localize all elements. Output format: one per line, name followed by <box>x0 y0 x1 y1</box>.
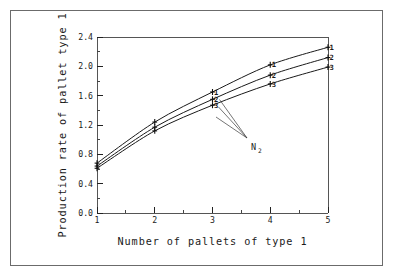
n2-annotation-base: N <box>251 142 256 152</box>
n2-annotation-subscript: 2 <box>258 147 262 154</box>
y-tick-label-1: 0.4 <box>78 179 93 189</box>
series-labels: 111222333 <box>214 43 334 110</box>
n2-leader-to-3 <box>216 117 247 138</box>
x-tick-label-5: 5 <box>326 215 331 225</box>
y-axis-title: Production rate of pallet type 1 <box>57 12 68 237</box>
series-label-1: 1 <box>330 43 334 52</box>
y-major-ticks <box>97 37 103 213</box>
y-tick-label-5: 2.0 <box>78 61 93 71</box>
x-axis-title: Number of pallets of type 1 <box>118 236 308 247</box>
y-tick-label-2: 0.8 <box>78 149 93 159</box>
series-label-1: 1 <box>272 60 276 69</box>
series-line-3 <box>97 67 328 168</box>
n2-leader-to-1 <box>220 100 248 139</box>
series-label-3: 3 <box>272 80 276 89</box>
x-tick-label-4: 4 <box>268 215 273 225</box>
series-label-2: 2 <box>330 53 334 62</box>
x-major-ticks <box>97 207 328 213</box>
data-point-marker <box>152 119 157 125</box>
y-tick-labels: 0.0 0.4 0.8 1.2 1.6 2.0 2.4 <box>78 32 93 218</box>
series-label-3: 3 <box>214 101 218 110</box>
x-tick-labels: 1 2 3 4 5 <box>95 215 331 225</box>
x-tick-label-1: 1 <box>95 215 100 225</box>
series-label-3: 3 <box>330 63 334 72</box>
x-tick-label-3: 3 <box>210 215 215 225</box>
figure-canvas: 0.0 0.4 0.8 1.2 1.6 2.0 2.4 1 2 3 4 5 Nu… <box>0 0 395 276</box>
x-tick-label-2: 2 <box>152 215 157 225</box>
series-markers <box>95 44 331 171</box>
n2-leader-to-2 <box>219 107 248 138</box>
line-chart: 0.0 0.4 0.8 1.2 1.6 2.0 2.4 1 2 3 4 5 Nu… <box>0 0 395 276</box>
n2-leader-lines <box>216 100 247 139</box>
series-label-2: 2 <box>272 71 276 80</box>
y-tick-label-4: 1.6 <box>78 91 93 101</box>
y-tick-label-6: 2.4 <box>78 32 93 42</box>
axes-group <box>97 37 328 213</box>
series-line-2 <box>97 58 328 167</box>
y-tick-label-0: 0.0 <box>78 208 93 218</box>
y-tick-label-3: 1.2 <box>78 120 93 130</box>
n2-annotation: N 2 <box>251 142 262 154</box>
